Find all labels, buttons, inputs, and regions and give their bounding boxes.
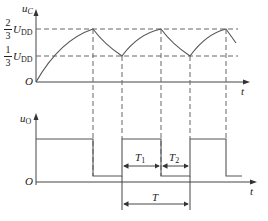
uc-subscript: C (28, 7, 33, 16)
two-thirds-fraction: 2 3 (4, 18, 12, 41)
top-x-axis (36, 80, 250, 85)
frac-numerator: 2 (4, 18, 12, 28)
top-y-axis (34, 9, 39, 82)
period-label: T (152, 192, 158, 203)
udd-subscript: DD (21, 28, 33, 37)
uo-subscript: O (26, 117, 32, 126)
bottom-y-axis (34, 113, 39, 185)
vertical-guides (93, 29, 226, 176)
t1-label: T1 (135, 152, 145, 165)
frac-numerator: 1 (4, 45, 12, 55)
two-thirds-udd-label: UDD (13, 24, 33, 37)
udd-subscript: DD (21, 55, 33, 64)
frac-denominator: 3 (4, 58, 12, 68)
udd-symbol: U (13, 50, 21, 62)
top-origin-label: O (25, 76, 33, 87)
bottom-y-axis-label: uO (20, 113, 31, 126)
bottom-origin-label: O (25, 176, 33, 187)
top-y-axis-label: uC (22, 3, 33, 16)
bottom-x-axis-label: t (250, 186, 253, 197)
top-x-axis-label: t (241, 86, 244, 97)
waveform-graphics (0, 0, 268, 221)
udd-symbol: U (13, 23, 21, 35)
t2-subscript: 2 (175, 156, 179, 165)
t1-subscript: 1 (141, 156, 145, 165)
timing-diagram: uC 2 3 UDD 1 3 UDD O t uO O t T1 T2 T (0, 0, 268, 221)
frac-denominator: 3 (4, 31, 12, 41)
one-third-udd-label: UDD (13, 51, 33, 64)
bottom-x-axis (36, 180, 257, 185)
t2-label: T2 (169, 152, 179, 165)
one-third-fraction: 1 3 (4, 45, 12, 68)
